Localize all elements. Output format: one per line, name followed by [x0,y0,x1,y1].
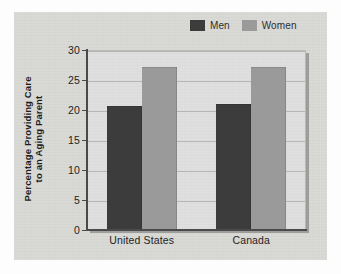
legend-swatch-men [190,20,205,31]
y-axis-tick [82,140,86,141]
gridline [87,111,305,112]
legend-item-women: Women [242,20,297,31]
y-axis-tick-label: 20 [68,104,80,116]
y-axis-tick-label: 10 [68,164,80,176]
chart-legend: Men Women [190,20,297,31]
gridlines [87,51,305,230]
y-axis-tick-label: 25 [68,74,80,86]
y-axis-tick [82,50,86,51]
legend-item-men: Men [190,20,230,31]
x-axis-category-label: Canada [232,234,270,246]
y-axis-tick-label: 0 [74,224,80,236]
gridline [87,201,305,202]
y-axis-tick-label: 5 [74,194,80,206]
y-axis-tick-label: 15 [68,134,80,146]
y-axis-tick [82,80,86,81]
x-axis-category-label: United States [109,234,174,246]
x-axis-category-labels: United StatesCanada [87,234,306,250]
y-axis-tick [82,200,86,201]
y-axis-tick-label: 30 [68,44,80,56]
gridline [87,141,305,142]
gridline [87,171,305,172]
x-axis-line [86,229,307,231]
plot-area [87,50,306,230]
y-axis-tick-labels: 051015202530 [52,50,80,230]
legend-swatch-women [242,20,257,31]
gridline [87,81,305,82]
y-axis-tick [82,230,86,231]
chart-figure: Men Women Percentage Providing Care to a… [0,0,341,274]
y-axis-line [86,49,88,231]
legend-label-women: Women [262,20,297,31]
gridline [87,51,305,52]
y-axis-tick [82,110,86,111]
y-axis-tick [82,170,86,171]
legend-label-men: Men [210,20,230,31]
